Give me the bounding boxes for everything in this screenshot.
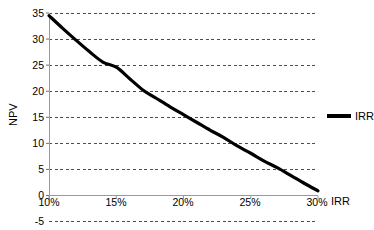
y-tick-35: 35 <box>16 8 44 19</box>
x-tick-30pct: 30% <box>297 196 337 208</box>
y-tick-15: 15 <box>16 112 44 123</box>
y-tick-10: 10 <box>16 138 44 149</box>
legend-label-irr: IRR <box>355 110 374 122</box>
x-tick-15pct: 15% <box>96 196 136 208</box>
y-tick-25: 25 <box>16 60 44 71</box>
legend: IRR <box>327 108 374 124</box>
series-line-irr <box>49 16 318 191</box>
legend-swatch-irr <box>327 114 351 118</box>
y-tick-neg5: -5 <box>16 216 44 227</box>
y-tick-label: 5 <box>18 164 44 175</box>
y-tick-5: 5 <box>16 164 44 175</box>
y-tick-label: 35 <box>18 8 44 19</box>
y-tick-20: 20 <box>16 86 44 97</box>
y-tick-label: -5 <box>18 216 44 227</box>
y-tick-label: 10 <box>18 138 44 149</box>
x-tick-10pct: 10% <box>29 196 69 208</box>
y-tick-label: 15 <box>18 112 44 123</box>
y-tick-30: 30 <box>16 34 44 45</box>
gridlines <box>49 13 318 222</box>
y-tick-marks <box>46 13 49 196</box>
x-tick-20pct: 20% <box>163 196 203 208</box>
x-tick-25pct: 25% <box>230 196 270 208</box>
y-tick-label: 30 <box>18 34 44 45</box>
y-tick-label: 25 <box>18 60 44 71</box>
y-tick-label: 20 <box>18 86 44 97</box>
